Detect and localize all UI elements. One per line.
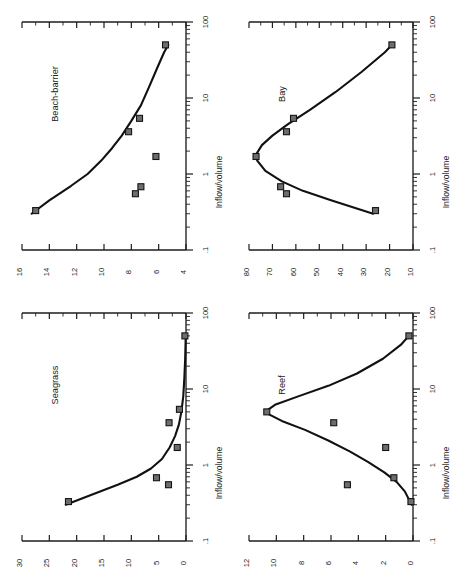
data-point-marker (291, 115, 297, 121)
data-point-marker (283, 191, 289, 197)
data-point-marker (383, 444, 389, 450)
fit-curve (267, 336, 412, 505)
y-tick-label: 30 (359, 268, 368, 276)
y-tick-label: 0 (179, 561, 188, 565)
x-tick-label: 100 (201, 16, 210, 29)
data-point-marker (253, 153, 259, 159)
y-tick-label: 25 (42, 559, 51, 567)
x-tick-label: .1 (201, 247, 210, 253)
data-point-marker (132, 191, 138, 197)
y-tick-label: 20 (383, 268, 392, 276)
panel-bay: 8070605040302010.1110100Inflow/volumeBay (227, 0, 454, 291)
data-point-marker (264, 409, 270, 415)
panel-plot-beach-barrier: 16141210864.1110100Inflow/volumeBeach-ba… (0, 0, 227, 291)
y-tick-label: 10 (406, 268, 415, 276)
y-tick-label: 12 (242, 559, 251, 567)
y-tick-label: 60 (289, 268, 298, 276)
y-tick-label: 50 (312, 268, 321, 276)
panel-title: Beach-barrier (50, 66, 60, 122)
x-tick-label: .1 (428, 538, 437, 544)
data-point-marker (344, 482, 350, 488)
panel-plot-bay: 8070605040302010.1110100Inflow/volumeBay (227, 0, 454, 291)
data-point-marker (174, 444, 180, 450)
data-point-marker (138, 184, 144, 190)
x-axis-label: Inflow/volume (441, 447, 451, 500)
y-tick-label: 40 (336, 268, 345, 276)
panel-plot-seagrass: 302520151050.1110100Inflow/volumeSeagras… (0, 291, 227, 582)
data-point-marker (373, 208, 379, 214)
y-tick-label: 10 (269, 559, 278, 567)
y-tick-label: 10 (97, 268, 106, 276)
y-tick-label: 4 (351, 561, 360, 565)
x-axis-label: Inflow/volume (441, 156, 451, 209)
y-tick-label: 4 (179, 270, 188, 274)
y-tick-label: 14 (42, 268, 51, 276)
y-tick-label: 12 (70, 268, 79, 276)
data-point-marker (65, 499, 71, 505)
x-tick-label: 1 (201, 463, 210, 467)
x-tick-label: 1 (201, 172, 210, 176)
data-point-marker (153, 153, 159, 159)
y-tick-label: 6 (152, 270, 161, 274)
data-point-marker (182, 333, 188, 339)
x-tick-label: 100 (428, 307, 437, 320)
y-tick-label: 30 (15, 559, 24, 567)
x-tick-label: 10 (428, 385, 437, 393)
panel-reef: 121086420.1110100Inflow/volumeReef (227, 291, 454, 582)
x-tick-label: 100 (428, 16, 437, 29)
panel-title: Bay (277, 86, 287, 102)
y-tick-label: 2 (379, 561, 388, 565)
data-point-marker (166, 420, 172, 426)
data-point-marker (163, 42, 169, 48)
data-point-marker (33, 208, 39, 214)
data-point-marker (166, 482, 172, 488)
y-tick-label: 80 (242, 268, 251, 276)
y-tick-label: 8 (124, 270, 133, 274)
y-tick-label: 6 (324, 561, 333, 565)
x-tick-label: .1 (201, 538, 210, 544)
y-tick-label: 16 (15, 268, 24, 276)
panel-title: Reef (277, 375, 287, 395)
x-tick-label: 10 (201, 385, 210, 393)
x-tick-label: 10 (201, 94, 210, 102)
panel-seagrass: 302520151050.1110100Inflow/volumeSeagras… (0, 291, 227, 582)
x-tick-label: 1 (428, 172, 437, 176)
x-tick-label: .1 (428, 247, 437, 253)
data-point-marker (391, 475, 397, 481)
y-tick-label: 8 (297, 561, 306, 565)
x-tick-label: 10 (428, 94, 437, 102)
y-tick-label: 0 (406, 561, 415, 565)
data-point-marker (283, 129, 289, 135)
data-point-marker (176, 406, 182, 412)
x-tick-label: 100 (201, 307, 210, 320)
data-point-marker (126, 129, 132, 135)
x-tick-label: 1 (428, 463, 437, 467)
figure-container: 16141210864.1110100Inflow/volumeBeach-ba… (0, 0, 454, 582)
y-tick-label: 5 (152, 561, 161, 565)
data-point-marker (137, 115, 143, 121)
y-tick-label: 70 (265, 268, 274, 276)
x-axis-label: Inflow/volume (214, 447, 224, 500)
data-point-marker (408, 499, 414, 505)
x-axis-label: Inflow/volume (214, 156, 224, 209)
data-point-marker (153, 475, 159, 481)
panel-beach-barrier: 16141210864.1110100Inflow/volumeBeach-ba… (0, 0, 227, 291)
panel-plot-reef: 121086420.1110100Inflow/volumeReef (227, 291, 454, 582)
panel-title: Seagrass (50, 365, 60, 404)
data-point-marker (406, 333, 412, 339)
data-point-marker (278, 184, 284, 190)
y-tick-label: 20 (70, 559, 79, 567)
data-point-marker (331, 420, 337, 426)
data-point-marker (389, 42, 395, 48)
y-tick-label: 10 (124, 559, 133, 567)
fit-curve (256, 45, 392, 214)
y-tick-label: 15 (97, 559, 106, 567)
